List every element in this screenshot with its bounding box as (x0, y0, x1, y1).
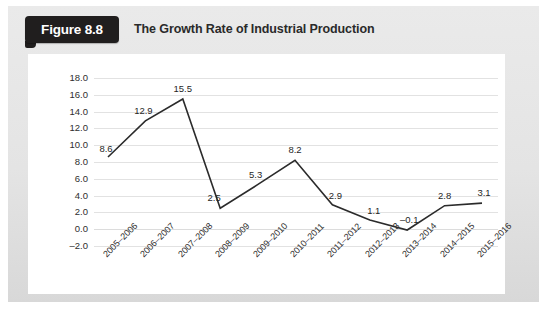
series-line (108, 99, 482, 230)
figure-frame: Figure 8.8 The Growth Rate of Industrial… (8, 6, 539, 302)
figure-number-tag: Figure 8.8 (25, 16, 119, 43)
figure-container: Figure 8.8 The Growth Rate of Industrial… (0, 0, 547, 322)
chart-panel: 18.016.014.012.010.08.06.04.02.00.0–2.0 … (28, 54, 505, 294)
figure-header: Figure 8.8 The Growth Rate of Industrial… (8, 6, 539, 52)
line-series-layer (28, 54, 505, 294)
figure-title: The Growth Rate of Industrial Production (134, 22, 374, 36)
